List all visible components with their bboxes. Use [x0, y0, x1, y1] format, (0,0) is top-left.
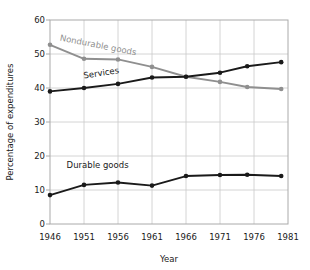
- data-point: [48, 193, 53, 198]
- chart-background: [0, 0, 310, 270]
- data-point: [184, 74, 189, 79]
- y-tick-label: 10: [34, 185, 45, 195]
- y-tick-label: 0: [40, 219, 45, 229]
- data-point: [218, 173, 223, 178]
- data-point: [150, 183, 155, 188]
- y-tick-label: 60: [34, 15, 45, 25]
- data-point: [116, 180, 121, 185]
- data-point: [218, 70, 223, 75]
- y-axis-title: Percentage of expenditures: [5, 63, 15, 181]
- series-label-durable-goods: Durable goods: [67, 160, 130, 170]
- y-tick-label: 50: [34, 49, 45, 59]
- data-point: [245, 85, 250, 90]
- data-point: [150, 75, 155, 80]
- data-point: [150, 65, 155, 70]
- data-point: [184, 174, 189, 179]
- data-point: [48, 43, 53, 48]
- x-tick-label: 1976: [243, 232, 265, 242]
- x-tick-label: 1946: [39, 232, 61, 242]
- data-point: [48, 89, 53, 94]
- data-point: [218, 80, 223, 85]
- data-point: [245, 64, 250, 69]
- data-point: [279, 87, 284, 92]
- x-tick-label: 1981: [277, 232, 299, 242]
- y-tick-label: 20: [34, 151, 45, 161]
- y-tick-label: 30: [34, 117, 45, 127]
- data-point: [245, 172, 250, 177]
- data-point: [279, 174, 284, 179]
- expenditure-line-chart: Nondurable goodsServicesDurable goods 19…: [0, 0, 310, 270]
- x-tick-label: 1951: [73, 232, 95, 242]
- x-tick-label: 1966: [175, 232, 197, 242]
- x-tick-label: 1956: [107, 232, 129, 242]
- x-axis-title: Year: [159, 254, 179, 264]
- y-tick-label: 40: [34, 83, 45, 93]
- data-point: [82, 183, 87, 188]
- x-tick-label: 1971: [209, 232, 231, 242]
- x-tick-label: 1961: [141, 232, 163, 242]
- data-point: [82, 86, 87, 91]
- data-point: [82, 56, 87, 61]
- data-point: [279, 60, 284, 65]
- data-point: [116, 57, 121, 62]
- data-point: [116, 82, 121, 87]
